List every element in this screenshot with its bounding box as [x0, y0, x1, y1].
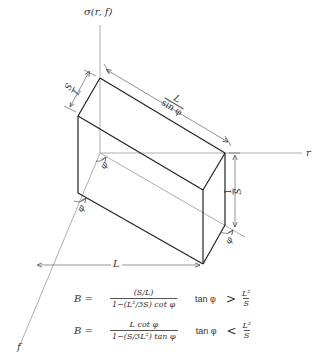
parallelepiped-diagram: [0, 0, 325, 364]
base-length-label: L: [111, 259, 122, 269]
f-axis: [20, 153, 100, 345]
formula-1-condition: tan φ > L² S: [195, 289, 250, 308]
height-dimension-label: 1 S: [224, 188, 243, 194]
base-diagonal-line: [100, 153, 245, 237]
formula-2-condition: tan φ < L² S: [196, 321, 251, 340]
formula-2-fraction: L cot φ 1−(S/3L²) tan φ: [110, 320, 178, 341]
sigma-axis-label: σ(r, f): [84, 7, 112, 17]
r-axis-label: r: [306, 148, 311, 158]
formula-2-lhs: B =: [74, 325, 104, 336]
formula-1-lhs: B =: [74, 293, 104, 304]
formula-2: B = L cot φ 1−(S/3L²) tan φ tan φ < L² S: [74, 320, 251, 341]
formula-1: B = (S/L) 1−(L²/3S) cot φ tan φ > L² S: [74, 288, 250, 309]
f-axis-label: f: [17, 342, 21, 352]
formula-1-fraction: (S/L) 1−(L²/3S) cot φ: [110, 288, 177, 309]
dimension-lines: [38, 64, 240, 265]
angle-arcs: [74, 157, 233, 233]
